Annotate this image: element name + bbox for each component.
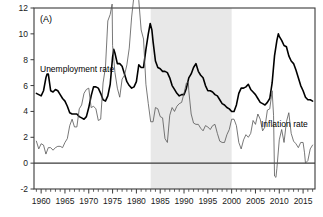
chart-canvas: -2024681012 1960196519701975198019851990… [0,0,323,217]
x-tick-label: 1975 [103,196,122,206]
x-tick-label: 1995 [198,196,217,206]
x-tick-label: 2005 [246,196,265,206]
x-tick-label: 2010 [270,196,289,206]
y-tick-label: 8 [23,55,28,65]
x-tick-label: 1990 [175,196,194,206]
line-chart: -2024681012 1960196519701975198019851990… [0,0,323,217]
x-tick-label: 2000 [222,196,241,206]
inflation-series-label: Inflation rate [261,119,308,129]
y-tick-label: 2 [23,132,28,142]
x-tick-label: 1980 [127,196,146,206]
figure-panel-a: -2024681012 1960196519701975198019851990… [0,0,323,217]
x-tick-label: 1985 [151,196,170,206]
y-tick-label: -2 [20,184,28,194]
x-tick-label: 1970 [79,196,98,206]
y-tick-label: 12 [19,3,29,13]
x-tick-label: 1960 [32,196,51,206]
y-tick-label: 6 [23,81,28,91]
unemployment-series-label: Unemployment rate [40,64,114,74]
y-tick-label: 10 [19,29,29,39]
x-tick-label: 1965 [55,196,74,206]
y-tick-label: 0 [23,158,28,168]
panel-label: (A) [40,14,52,24]
x-tick-label: 2015 [294,196,313,206]
y-tick-label: 4 [23,106,28,116]
